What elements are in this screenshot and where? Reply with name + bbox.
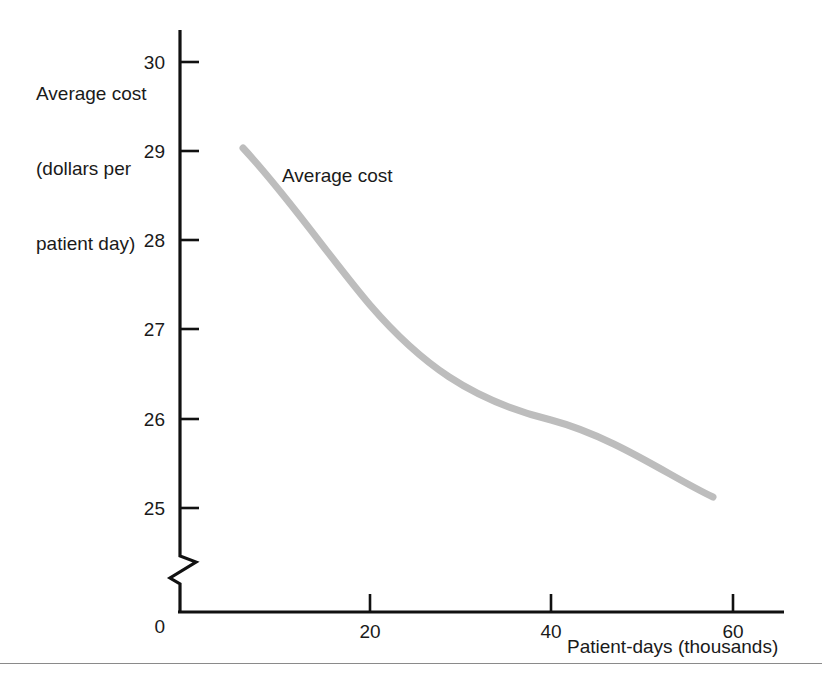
y-axis-title-line-1: Average cost: [36, 81, 147, 106]
y-tick-label-30: 30: [119, 53, 165, 72]
average-cost-curve: [243, 148, 713, 497]
y-tick-label-29: 29: [119, 142, 165, 161]
y-tick-label-28: 28: [119, 231, 165, 250]
y-axis-break-icon: [170, 548, 196, 612]
y-origin-label-0: 0: [119, 617, 165, 636]
x-tick-label-20: 20: [340, 622, 400, 641]
x-tick-marks: [370, 594, 733, 612]
y-tick-label-27: 27: [119, 320, 165, 339]
x-axis-title: Patient-days (thousands): [567, 634, 778, 659]
bottom-divider-rule: [0, 663, 822, 664]
figure-container: Average cost (dollars per patient day) 3…: [0, 0, 822, 687]
y-tick-label-26: 26: [119, 410, 165, 429]
y-tick-label-25: 25: [119, 499, 165, 518]
series-annotation-average-cost: Average cost: [282, 163, 393, 188]
y-tick-marks: [180, 62, 199, 508]
y-axis-title: Average cost (dollars per patient day): [36, 31, 147, 306]
